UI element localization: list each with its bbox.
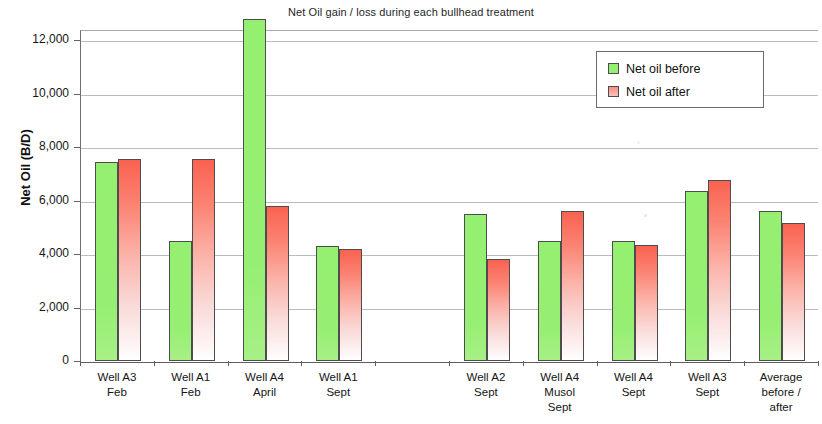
y-tick-label: 2,000 <box>0 300 69 314</box>
x-tick-label: Well A2Sept <box>449 370 523 400</box>
x-tick-mark <box>154 361 155 366</box>
x-tick-label-line: Well A1 <box>154 370 228 385</box>
legend-item: Net oil after <box>608 80 763 103</box>
x-tick-label: Well A1Feb <box>154 370 228 400</box>
bar-net-oil-before <box>243 19 266 361</box>
y-axis-title: Net Oil (B/D) <box>18 88 33 248</box>
y-tick-label: 10,000 <box>0 86 69 100</box>
x-tick-label: Well A3Sept <box>670 370 744 400</box>
x-tick-label-line: Feb <box>154 385 228 400</box>
y-tick-label: 12,000 <box>0 32 69 46</box>
legend-swatch-after-icon <box>608 86 619 97</box>
legend-swatch-before-icon <box>608 63 619 74</box>
bar-net-oil-before <box>685 191 708 361</box>
scan-artifact <box>637 141 640 144</box>
y-tick-label: 6,000 <box>0 193 69 207</box>
x-tick-label-line: Average <box>744 370 818 385</box>
bar-net-oil-before <box>95 162 118 361</box>
bar-net-oil-after <box>487 259 510 361</box>
y-tick-label: 8,000 <box>0 139 69 153</box>
x-tick-label: Well A4April <box>228 370 302 400</box>
x-tick-label-line: Well A2 <box>449 370 523 385</box>
x-tick-label: Well A1Sept <box>301 370 375 400</box>
chart-title: Net Oil gain / loss during each bullhead… <box>0 6 822 18</box>
x-tick-label: Averagebefore /after <box>744 370 818 415</box>
y-tick-mark <box>74 94 80 95</box>
x-tick-label-line: Well A1 <box>301 370 375 385</box>
bar-net-oil-after <box>118 159 141 361</box>
x-tick-label-line: Sept <box>523 400 597 415</box>
x-tick-label: Well A3Feb <box>80 370 154 400</box>
x-tick-label-line: Sept <box>597 385 671 400</box>
y-tick-mark <box>74 40 80 41</box>
x-tick-label-line: before / <box>744 385 818 400</box>
x-tick-label-line: Well A3 <box>80 370 154 385</box>
y-tick-label: 4,000 <box>0 246 69 260</box>
scan-artifact <box>644 214 647 217</box>
y-tick-mark <box>74 147 80 148</box>
x-tick-mark <box>375 361 376 366</box>
x-tick-mark <box>228 361 229 366</box>
x-tick-label-line: Well A3 <box>670 370 744 385</box>
bar-net-oil-before <box>464 214 487 361</box>
bar-net-oil-before <box>538 241 561 361</box>
x-axis: Well A3FebWell A1FebWell A4AprilWell A1S… <box>80 361 818 424</box>
x-tick-label-line: after <box>744 400 818 415</box>
legend-label-before: Net oil before <box>626 62 700 76</box>
x-tick-label-line: Well A4 <box>228 370 302 385</box>
bar-net-oil-after <box>635 245 658 361</box>
y-tick-mark <box>74 201 80 202</box>
x-tick-label-line: Sept <box>670 385 744 400</box>
x-tick-mark <box>744 361 745 366</box>
x-tick-label-line: Feb <box>80 385 154 400</box>
bar-chart: Net Oil gain / loss during each bullhead… <box>0 0 822 424</box>
bar-net-oil-before <box>169 241 192 361</box>
legend-item: Net oil before <box>608 57 763 80</box>
x-tick-label-line: Musol <box>523 385 597 400</box>
x-tick-label-line: Well A4 <box>523 370 597 385</box>
y-tick-label: 0 <box>0 353 69 367</box>
bar-net-oil-after <box>266 206 289 361</box>
x-tick-label: Well A4MusolSept <box>523 370 597 415</box>
x-tick-label-line: Sept <box>449 385 523 400</box>
legend-label-after: Net oil after <box>626 85 690 99</box>
x-tick-label: Well A4Sept <box>597 370 671 400</box>
y-tick-mark <box>74 254 80 255</box>
x-tick-mark <box>523 361 524 366</box>
bar-net-oil-before <box>612 241 635 361</box>
x-tick-mark <box>670 361 671 366</box>
bar-net-oil-before <box>759 211 782 361</box>
bar-net-oil-after <box>339 249 362 361</box>
legend: Net oil before Net oil after <box>596 51 764 108</box>
x-tick-mark <box>301 361 302 366</box>
bar-net-oil-before <box>316 246 339 361</box>
x-tick-label-line: Sept <box>301 385 375 400</box>
x-tick-mark <box>449 361 450 366</box>
bar-net-oil-after <box>708 180 731 361</box>
bar-net-oil-after <box>782 223 805 361</box>
bar-net-oil-after <box>561 211 584 361</box>
x-tick-label-line: Well A4 <box>597 370 671 385</box>
x-tick-mark <box>80 361 81 366</box>
x-tick-mark <box>597 361 598 366</box>
x-tick-mark <box>818 361 819 366</box>
y-tick-mark <box>74 308 80 309</box>
x-tick-label-line: April <box>228 385 302 400</box>
bar-net-oil-after <box>192 159 215 361</box>
